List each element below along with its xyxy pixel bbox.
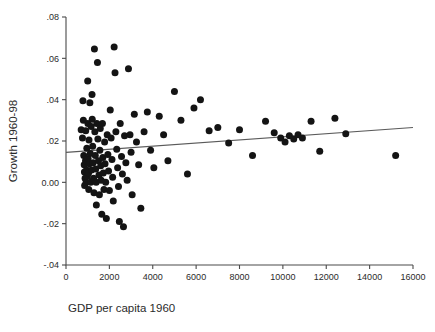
x-tick-label: 8000 <box>229 272 249 282</box>
data-point <box>112 128 119 135</box>
data-point <box>108 156 115 163</box>
data-point <box>125 65 132 72</box>
data-point <box>89 143 96 150</box>
data-point <box>118 153 125 160</box>
data-point <box>115 183 122 190</box>
x-tick-label: 14000 <box>357 272 382 282</box>
data-point <box>122 159 129 166</box>
data-point <box>137 205 144 212</box>
data-point <box>108 134 115 141</box>
data-point <box>114 164 121 171</box>
y-tick-label: .02 <box>46 136 59 146</box>
data-point <box>84 78 91 85</box>
data-point <box>103 215 110 222</box>
data-point <box>126 131 133 138</box>
data-point <box>236 126 243 133</box>
data-point <box>129 191 136 198</box>
data-point <box>184 171 191 178</box>
data-point <box>99 120 106 127</box>
data-point <box>86 99 93 106</box>
axis-spines <box>66 17 413 265</box>
data-point <box>112 69 119 76</box>
data-point <box>331 115 338 122</box>
data-point <box>94 135 101 142</box>
x-tick-label: 2000 <box>99 272 119 282</box>
data-point <box>89 91 96 98</box>
data-point <box>164 157 171 164</box>
y-tick-label: -.04 <box>43 260 59 270</box>
data-point <box>342 130 349 137</box>
data-point <box>124 177 131 184</box>
data-point <box>133 139 140 146</box>
data-point <box>177 117 184 124</box>
data-point <box>308 118 315 125</box>
data-point <box>156 113 163 120</box>
data-point <box>225 140 232 147</box>
data-point <box>131 111 138 118</box>
data-point <box>214 124 221 131</box>
data-point <box>102 160 109 167</box>
data-point <box>150 164 157 171</box>
data-point <box>144 109 151 116</box>
data-point <box>79 97 86 104</box>
x-tick-label: 4000 <box>143 272 163 282</box>
data-point <box>102 179 109 186</box>
axis-ticks <box>62 17 413 269</box>
y-axis-label: Growth 1960-98 <box>7 100 19 182</box>
data-point <box>120 223 127 230</box>
data-point <box>111 43 118 50</box>
data-point <box>96 147 103 154</box>
data-point <box>85 136 92 143</box>
data-points <box>78 43 399 230</box>
y-tick-label: .04 <box>46 95 59 105</box>
data-point <box>135 161 142 168</box>
plot-frame <box>66 17 413 265</box>
data-point <box>128 149 135 156</box>
data-point <box>197 96 204 103</box>
data-point <box>206 127 213 134</box>
scatter-plot-figure: 0200040006000800010000120001400016000.08… <box>0 0 435 332</box>
data-point <box>316 148 323 155</box>
x-tick-label: 0 <box>63 272 68 282</box>
y-tick-label: 0.00 <box>41 178 59 188</box>
plot-canvas: 0200040006000800010000120001400016000.08… <box>0 0 435 332</box>
data-point <box>160 131 167 138</box>
x-axis-label: GDP per capita 1960 <box>68 302 175 314</box>
x-tick-label: 10000 <box>270 272 295 282</box>
data-point <box>262 118 269 125</box>
y-tick-label: .08 <box>46 12 59 22</box>
data-point <box>93 202 100 209</box>
data-point <box>249 152 256 159</box>
y-tick-label: -.02 <box>43 219 59 229</box>
data-point <box>141 128 148 135</box>
data-point <box>101 139 108 146</box>
data-point <box>119 171 126 178</box>
data-point <box>109 174 116 181</box>
data-point <box>190 104 197 111</box>
data-point <box>91 46 98 53</box>
data-point <box>299 134 306 141</box>
data-point <box>271 129 278 136</box>
x-tick-label: 16000 <box>400 272 425 282</box>
data-point <box>171 88 178 95</box>
data-point <box>282 139 289 146</box>
data-point <box>105 167 112 174</box>
data-point <box>94 59 101 66</box>
x-tick-label: 6000 <box>186 272 206 282</box>
data-point <box>147 147 154 154</box>
x-tick-label: 12000 <box>314 272 339 282</box>
data-point <box>117 120 124 127</box>
data-point <box>113 146 120 153</box>
data-point <box>107 107 114 114</box>
y-tick-label: .06 <box>46 54 59 64</box>
data-point <box>110 197 117 204</box>
data-point <box>392 152 399 159</box>
data-point <box>106 187 113 194</box>
data-point <box>79 134 86 141</box>
